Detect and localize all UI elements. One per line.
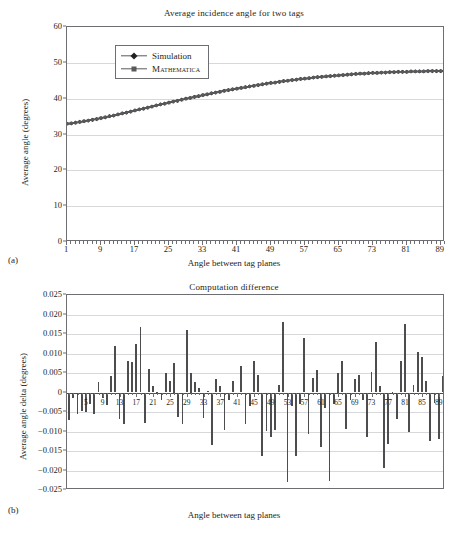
series-marker: [410, 70, 413, 73]
series-marker: [444, 70, 445, 73]
x-tick-label-b: 81: [401, 398, 409, 407]
x-tick-label-b: 73: [368, 398, 376, 407]
y-tick-label-b: 0.005: [43, 367, 62, 377]
x-tick-mark-a: [329, 241, 330, 244]
series-marker: [316, 76, 319, 79]
series-marker: [150, 105, 153, 108]
series-marker: [265, 82, 268, 85]
x-tick-mark-a: [274, 241, 275, 244]
series-marker: [206, 93, 209, 96]
x-tick-mark-b: [220, 393, 221, 397]
x-tick-label-b: 29: [183, 398, 191, 407]
x-tick-mark-b: [380, 393, 381, 396]
series-marker: [405, 70, 408, 73]
x-tick-mark-b: [397, 393, 398, 396]
y-tick-mark-a: [63, 61, 66, 62]
series-marker: [286, 79, 289, 82]
x-tick-label-b: 25: [166, 398, 174, 407]
series-marker: [104, 116, 107, 119]
x-tick-mark-a: [261, 241, 262, 244]
series-marker: [142, 107, 145, 110]
series-marker: [74, 121, 77, 124]
x-tick-mark-b: [246, 393, 247, 396]
x-tick-mark-b: [166, 393, 167, 396]
plot-frame-b: 5913172125293337414549535761656973778185…: [66, 294, 444, 489]
legend-item-mathematica[interactable]: Mathematica: [121, 62, 200, 75]
series-marker: [172, 100, 175, 103]
series-marker: [346, 73, 349, 76]
bar: [404, 324, 406, 393]
x-tick-mark-b: [124, 393, 125, 396]
x-tick-label-a: 9: [98, 244, 102, 254]
x-tick-mark-a: [155, 241, 156, 244]
x-tick-mark-a: [312, 241, 313, 244]
x-tick-mark-b: [82, 393, 83, 396]
series-marker: [70, 122, 73, 125]
y-tick-label-a: 60: [54, 21, 63, 31]
diamond-marker-icon: [121, 50, 147, 61]
bar: [173, 363, 175, 392]
x-tick-mark-a: [109, 241, 110, 244]
series-marker: [201, 94, 204, 97]
series-marker: [155, 104, 158, 107]
series-marker: [138, 108, 141, 111]
legend-a[interactable]: SimulationMathematica: [115, 45, 209, 79]
x-tick-mark-a: [397, 241, 398, 244]
bar: [81, 393, 83, 412]
y-tick-label-a: 10: [54, 200, 63, 210]
bar: [253, 361, 255, 393]
x-tick-mark-a: [380, 241, 381, 244]
bar: [400, 361, 402, 393]
series-marker: [223, 89, 226, 92]
series-marker: [78, 120, 81, 123]
series-marker: [95, 118, 98, 121]
x-tick-mark-b: [153, 393, 154, 397]
x-tick-mark-b: [283, 393, 284, 396]
series-marker: [435, 70, 438, 73]
x-tick-mark-a: [151, 241, 152, 244]
y-tick-mark-b: [63, 489, 66, 490]
x-tick-mark-a: [342, 241, 343, 244]
y-tick-label-b: −0.015: [38, 445, 62, 455]
x-tick-mark-a: [389, 241, 390, 244]
y-tick-mark-b: [63, 313, 66, 314]
x-tick-mark-b: [132, 393, 133, 396]
x-tick-mark-b: [271, 393, 272, 397]
series-marker: [312, 76, 315, 79]
bar: [240, 366, 242, 392]
x-axis-title-b: Angle between tag planes: [0, 510, 468, 520]
bar: [131, 362, 133, 392]
x-tick-mark-b: [405, 393, 406, 397]
x-tick-mark-b: [149, 393, 150, 396]
series-marker: [337, 74, 340, 77]
x-tick-label-b: 37: [217, 398, 225, 407]
series-marker: [184, 97, 187, 100]
legend-label: Simulation: [152, 51, 192, 61]
x-tick-mark-b: [162, 393, 163, 396]
x-tick-mark-b: [225, 393, 226, 396]
panel-b: Computation difference Average angle del…: [0, 272, 468, 543]
y-tick-mark-b: [63, 391, 66, 392]
x-tick-mark-b: [384, 393, 385, 396]
series-marker: [401, 70, 404, 73]
x-tick-mark-b: [99, 393, 100, 396]
x-tick-mark-b: [393, 393, 394, 396]
x-tick-mark-a: [121, 241, 122, 244]
series-marker: [231, 88, 234, 91]
x-tick-mark-b: [174, 393, 175, 396]
x-tick-label-b: 53: [284, 398, 292, 407]
bar: [316, 370, 318, 393]
x-tick-mark-b: [250, 393, 251, 396]
x-tick-label-a: 25: [164, 244, 173, 254]
plot-area-b: 5913172125293337414549535761656973778185…: [66, 294, 444, 489]
legend-item-simulation[interactable]: Simulation: [121, 49, 200, 62]
x-tick-mark-a: [193, 241, 194, 244]
x-tick-mark-b: [409, 393, 410, 396]
bar: [177, 393, 179, 418]
y-tick-label-b: 0: [58, 387, 62, 397]
series-marker: [133, 109, 136, 112]
y-tick-label-a: 40: [54, 93, 63, 103]
x-tick-mark-a: [444, 241, 445, 244]
x-tick-label-b: 9: [101, 398, 105, 407]
x-tick-label-b: 17: [133, 398, 141, 407]
